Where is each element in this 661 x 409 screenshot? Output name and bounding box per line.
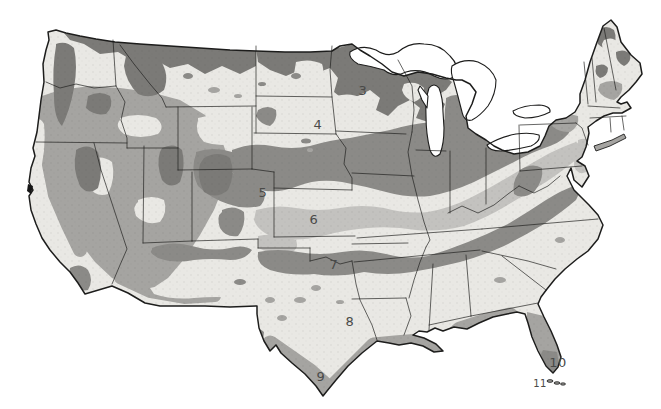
zone-label-3: 3: [359, 83, 368, 98]
zone-label-9: 9: [317, 369, 326, 384]
us-climate-zone-map-page: 34567891011: [0, 0, 661, 409]
zone-label-10: 10: [549, 355, 567, 370]
zone-label-8: 8: [346, 314, 355, 329]
zone-shading: [25, 15, 661, 405]
lake-michigan: [426, 85, 444, 156]
lake-erie: [487, 133, 539, 151]
zone-label-6: 6: [310, 212, 319, 227]
zone-label-7: 7: [330, 257, 339, 272]
zone-label-11: 11: [533, 378, 547, 389]
florida-key: [547, 380, 553, 383]
florida-key: [561, 383, 566, 385]
lake-ontario: [513, 105, 550, 118]
zone-label-5: 5: [259, 185, 268, 200]
us-hardiness-zone-map: 34567891011: [0, 0, 661, 409]
zone-label-4: 4: [314, 117, 323, 132]
long-island: [594, 134, 626, 151]
florida-key: [554, 382, 560, 384]
